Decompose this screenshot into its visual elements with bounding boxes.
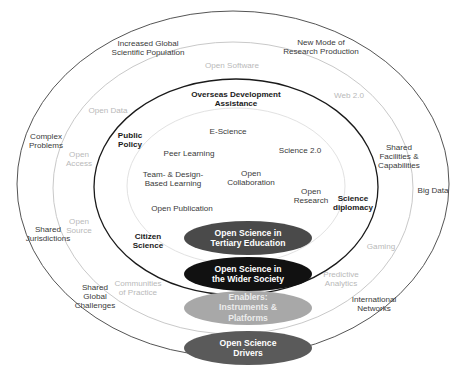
concentric-ellipses-svg — [0, 0, 467, 378]
legend-ellipse-enablers[interactable] — [184, 291, 312, 325]
open-science-diagram: Increased Global Scientific Population N… — [0, 0, 467, 378]
legend-ellipse-drivers[interactable] — [184, 331, 312, 365]
legend-ellipse-wider-society[interactable] — [184, 257, 312, 291]
legend-ellipse-tertiary-education[interactable] — [184, 221, 312, 255]
